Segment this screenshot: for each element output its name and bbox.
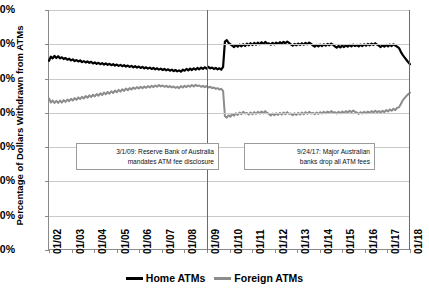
y-axis-tick-label: 70% bbox=[0, 4, 15, 15]
x-axis-tick-label: 01/05 bbox=[120, 229, 131, 254]
gridline bbox=[49, 79, 409, 80]
x-axis-tick bbox=[49, 249, 50, 253]
y-axis-tick-label: 10% bbox=[0, 210, 15, 221]
x-axis-tick bbox=[320, 249, 321, 253]
x-axis-tick-label: 01/14 bbox=[323, 229, 334, 254]
x-axis-tick-label: 01/11 bbox=[255, 230, 266, 254]
y-axis-tick-label: 30% bbox=[0, 141, 15, 152]
x-axis-tick bbox=[72, 249, 73, 253]
y-axis-tick bbox=[45, 79, 49, 80]
y-axis-tick bbox=[45, 147, 49, 148]
x-axis-tick-label: 01/04 bbox=[97, 229, 108, 254]
gridline bbox=[49, 10, 409, 11]
x-axis-tick bbox=[184, 249, 185, 253]
y-axis-tick bbox=[45, 181, 49, 182]
legend-swatch bbox=[214, 277, 231, 280]
y-axis-tick-label: 60% bbox=[0, 38, 15, 49]
y-axis-tick-label: 40% bbox=[0, 107, 15, 118]
legend-label: Foreign ATMs bbox=[234, 272, 303, 284]
annotation-line-1: 3/1/09: Reserve Bank of Australia bbox=[82, 147, 214, 157]
atm-withdrawal-chart: Percentage of Dollars Withdrawn from ATM… bbox=[0, 0, 429, 293]
annotation-line-1: 9/24/17: Major Australian bbox=[250, 147, 370, 157]
x-axis-tick-label: 01/03 bbox=[75, 229, 86, 254]
legend-label: Home ATMs bbox=[146, 272, 206, 284]
annotation-line-2: banks drop all ATM fees bbox=[250, 157, 370, 167]
x-axis-tick-label: 01/09 bbox=[210, 229, 221, 254]
y-axis-tick-label: 20% bbox=[0, 175, 15, 186]
x-axis-tick-label: 01/02 bbox=[52, 229, 63, 254]
x-axis-tick bbox=[365, 249, 366, 253]
x-axis-tick bbox=[139, 249, 140, 253]
event-marker-banks-drop-atm-fees bbox=[409, 10, 410, 250]
x-axis-tick bbox=[230, 249, 231, 253]
annotation-banks-drop-atm-fees: 9/24/17: Major Australianbanks drop all … bbox=[244, 143, 375, 170]
legend-entry-home-atms: Home ATMs bbox=[126, 272, 206, 284]
series-lines bbox=[49, 10, 410, 250]
x-axis-tick bbox=[342, 249, 343, 253]
gridline bbox=[49, 44, 409, 45]
x-axis-tick-label: 01/17 bbox=[390, 229, 401, 254]
x-axis-tick-label: 01/18 bbox=[413, 229, 424, 254]
legend-swatch bbox=[126, 277, 143, 280]
x-axis-tick-label: 01/06 bbox=[142, 229, 153, 254]
plot-area bbox=[48, 10, 409, 250]
x-axis-tick bbox=[297, 249, 298, 253]
chart-legend: Home ATMsForeign ATMs bbox=[0, 272, 429, 284]
event-marker-rba-fee-disclosure bbox=[207, 10, 208, 250]
legend-entry-foreign-atms: Foreign ATMs bbox=[214, 272, 303, 284]
y-axis-tick-label: 0% bbox=[0, 244, 15, 255]
x-axis-tick bbox=[117, 249, 118, 253]
x-axis-tick bbox=[252, 249, 253, 253]
y-axis-tick bbox=[45, 216, 49, 217]
y-axis-tick bbox=[45, 10, 49, 11]
x-axis-tick bbox=[387, 249, 388, 253]
y-axis-title: Percentage of Dollars Withdrawn from ATM… bbox=[14, 11, 25, 241]
x-axis-tick bbox=[162, 249, 163, 253]
gridline bbox=[49, 181, 409, 182]
annotation-rba-fee-disclosure: 3/1/09: Reserve Bank of Australiamandate… bbox=[76, 143, 219, 170]
x-axis-tick-label: 01/10 bbox=[233, 229, 244, 254]
x-axis-tick bbox=[275, 249, 276, 253]
y-axis-tick-label: 50% bbox=[0, 73, 15, 84]
x-axis-tick-label: 01/15 bbox=[345, 229, 356, 254]
x-axis-tick-label: 01/07 bbox=[165, 229, 176, 254]
x-axis-tick-label: 01/16 bbox=[368, 229, 379, 254]
x-axis-tick bbox=[94, 249, 95, 253]
gridline bbox=[49, 113, 409, 114]
gridline bbox=[49, 216, 409, 217]
x-axis-tick-label: 01/12 bbox=[278, 229, 289, 254]
annotation-line-2: mandates ATM fee disclosure bbox=[82, 157, 214, 167]
y-axis-tick bbox=[45, 44, 49, 45]
x-axis-tick-label: 01/13 bbox=[300, 229, 311, 254]
x-axis-tick-label: 01/08 bbox=[187, 229, 198, 254]
y-axis-tick bbox=[45, 113, 49, 114]
